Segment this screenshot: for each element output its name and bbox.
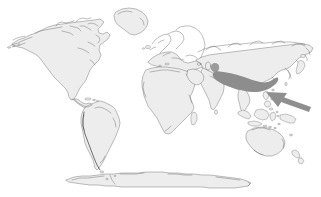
range-outlier-dot	[211, 63, 219, 72]
world-distribution-map	[0, 0, 321, 197]
map-canvas	[0, 0, 321, 197]
landmass-new-zealand	[289, 134, 304, 164]
landmass-north-america	[12, 18, 110, 110]
landmass-south-america	[81, 101, 120, 173]
landmass-europe	[142, 26, 206, 72]
island-japan	[296, 60, 305, 74]
landmass-antarctica	[66, 172, 251, 188]
island-madagascar	[191, 112, 197, 125]
landmass-greenland	[114, 8, 148, 35]
landmass-australia	[246, 127, 285, 156]
